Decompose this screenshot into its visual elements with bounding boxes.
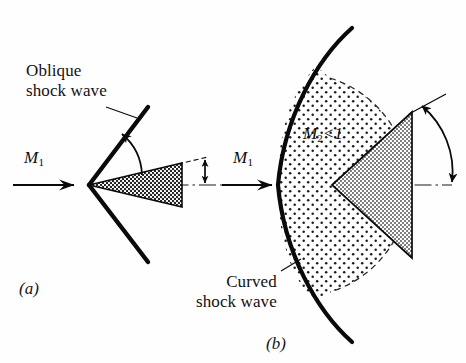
freestream-mach-label-a: M1 [24, 148, 44, 168]
region-mach-value: 1 [334, 124, 343, 143]
freestream-mach-subscript-b: 1 [247, 156, 253, 168]
region-mach-symbol: M [303, 124, 317, 143]
oblique-shock-wave-label: Oblique shock wave [26, 61, 107, 101]
curved-shock-wave-label: Curved shock wave [196, 272, 277, 312]
subsonic-region-label: M2<1 [303, 124, 343, 144]
panel-letter-a: (a) [19, 279, 39, 299]
region-relation-symbol: < [323, 124, 335, 143]
shock-wave-figure: Oblique shock wave M1 (a) M1 M2<1 Curved… [0, 0, 466, 363]
panel-letter-b: (b) [266, 334, 286, 354]
freestream-mach-symbol-a: M [24, 148, 38, 167]
region-mach-subscript: 2 [317, 132, 323, 144]
panel-a-graphics [13, 107, 226, 262]
freestream-mach-label-b: M1 [233, 148, 253, 168]
freestream-mach-symbol-b: M [233, 148, 247, 167]
oblique-shock-leader [106, 107, 137, 118]
wedge-surface-extension-a [178, 157, 208, 164]
freestream-mach-subscript-a: 1 [38, 156, 44, 168]
deflection-angle-arc-b [422, 106, 453, 182]
